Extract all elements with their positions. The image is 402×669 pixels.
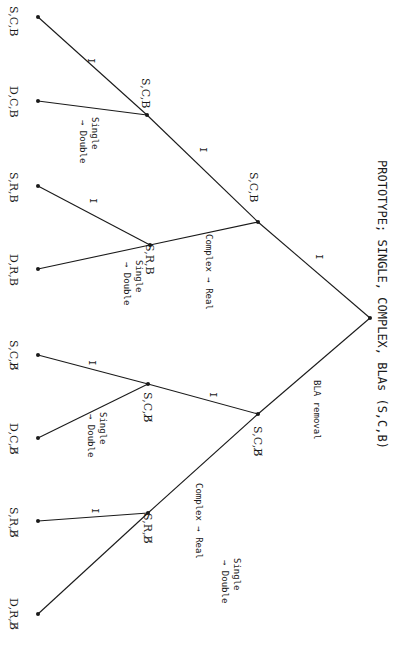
leaf-label: S,C,B: [7, 6, 20, 36]
leaf-label: D,C,B̸: [7, 423, 20, 455]
edge-label-I: I: [314, 254, 324, 259]
edge-label-I: I: [88, 198, 98, 203]
edge-label-I: I: [86, 58, 96, 63]
leaf-node: [36, 519, 40, 523]
leaf-node: [36, 353, 40, 357]
leaf-node: [36, 15, 40, 19]
edge-label-I: I: [208, 392, 218, 397]
diagram-title: PROTOTYPE; SINGLE, COMPLEX, BLAs (S,C,B): [375, 160, 389, 449]
single-label: Single: [90, 117, 100, 150]
edge-label-I: I: [198, 147, 208, 152]
edge-scb-low-to-leaf1: [38, 17, 147, 115]
node-scb: [256, 220, 260, 224]
node-scb-low: [145, 113, 149, 117]
node-label: S,C,B̸: [251, 426, 264, 456]
leaf-label: S,R,B: [7, 172, 20, 203]
leaf-label: D,C,B: [7, 86, 20, 118]
node-label: S,C,B̸: [141, 392, 154, 422]
leaf-label: D,R,B̸: [7, 598, 20, 630]
node-scbx-low: [146, 382, 150, 386]
leaf-label: S,C,B̸: [7, 340, 20, 370]
single-label: Single: [98, 412, 108, 445]
leaf-node: [36, 436, 40, 440]
edge-srb-to-leaf3: [38, 186, 150, 245]
double-label: → Double: [78, 120, 88, 163]
leaf-label: S,R,B̸: [7, 507, 20, 538]
node-scbx: [256, 412, 260, 416]
complex-real-label: Complex → Real: [194, 483, 204, 559]
edge-label-I: I: [87, 360, 97, 365]
edge-srbx-to-leaf8: [38, 513, 148, 614]
single-label: Single: [134, 260, 144, 293]
edge-scb-to-scb-low: [147, 115, 258, 222]
leaf-node: [36, 267, 40, 271]
node-label: S,C,B: [139, 78, 152, 108]
node-label: S,R,B̸: [141, 513, 154, 544]
node-label: S,C,B: [247, 172, 260, 202]
edge-srbx-to-leaf7: [38, 513, 148, 521]
double-label: → Double: [122, 262, 132, 305]
double-label: → Double: [220, 560, 230, 603]
bla-removal-label: BLA removal: [312, 380, 322, 440]
complex-real-label: Complex → Real: [204, 234, 214, 310]
edge-scb-to-srb: [150, 222, 258, 245]
leaf-node: [36, 99, 40, 103]
leaf-labels: S,C,B D,C,B S,R,B D,R,B S,C,B̸ D,C,B̸ S,…: [7, 6, 20, 630]
edge-label-I: I: [90, 508, 100, 513]
edge-scbx-to-scbx-low: [148, 384, 258, 414]
leaf-node: [36, 612, 40, 616]
decision-tree-diagram: PROTOTYPE; SINGLE, COMPLEX, BLAs (S,C,B)…: [0, 0, 402, 669]
edge-srb-to-leaf4: [38, 245, 150, 269]
edge-scb-low-to-leaf2: [38, 101, 147, 115]
leaf-label: D,R,B: [7, 254, 20, 286]
double-label: → Double: [86, 414, 96, 457]
edge-root-to-scb: [258, 222, 370, 318]
edge-labels: I I I I I I I Single → Double Single → D…: [78, 58, 324, 603]
single-label: Single: [232, 558, 242, 591]
root-node: [368, 316, 372, 320]
leaf-node: [36, 184, 40, 188]
